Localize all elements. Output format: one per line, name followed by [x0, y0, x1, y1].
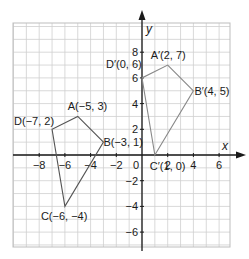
y-tick-label: 6 [132, 72, 138, 84]
x-tick-label: 6 [216, 159, 222, 171]
vertex-labels: A(−5, 3)B(−3, 1)C(−6, −4)D(−7, 2)A′(2, 7… [14, 49, 229, 222]
y-tick-label: −6 [125, 226, 138, 238]
x-tick-label: 4 [190, 159, 196, 171]
vertex-label: C(−6, −4) [41, 210, 87, 222]
x-tick-label: −4 [84, 159, 97, 171]
x-tick-label: −2 [110, 159, 123, 171]
x-tick-label: −6 [59, 159, 72, 171]
vertex-label: B(−3, 1) [103, 136, 142, 148]
y-tick-label: 4 [132, 98, 138, 110]
y-tick-label: −2 [125, 175, 138, 187]
x-axis-arrow-icon [236, 152, 246, 159]
vertex-label: D′(0, 6) [106, 58, 142, 70]
y-axis-arrow-icon [139, 10, 146, 20]
origin-label: 0 [133, 159, 139, 171]
vertex-label: B′(4, 5) [194, 85, 229, 97]
vertex-label: A(−5, 3) [68, 100, 107, 112]
y-tick-label: 8 [132, 46, 138, 58]
x-axis-label: x [221, 139, 229, 153]
coordinate-plane: x y 0 −8−6−4−22468642−2−4−6 A(−5, 3)B(−3… [0, 0, 249, 259]
x-tick-label: −8 [33, 159, 46, 171]
y-tick-label: 2 [132, 123, 138, 135]
vertex-label: A′(2, 7) [151, 49, 186, 61]
vertex-label: C′(1, 0) [150, 160, 186, 172]
y-tick-label: −4 [125, 200, 138, 212]
vertex-label: D(−7, 2) [14, 115, 54, 127]
y-axis-label: y [145, 22, 153, 36]
